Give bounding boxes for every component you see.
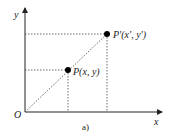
x-axis-label: x	[153, 116, 159, 127]
y-axis-label: y	[13, 9, 19, 20]
caption: a)	[82, 122, 89, 132]
origin-label: O	[14, 109, 21, 120]
diagram: y x O P(x, y) P'(x', y') a)	[0, 0, 172, 138]
point-p	[65, 67, 71, 73]
point-p-label: P(x, y)	[72, 66, 100, 78]
point-p-prime	[104, 31, 110, 37]
point-p-prime-label: P'(x', y')	[112, 29, 147, 41]
